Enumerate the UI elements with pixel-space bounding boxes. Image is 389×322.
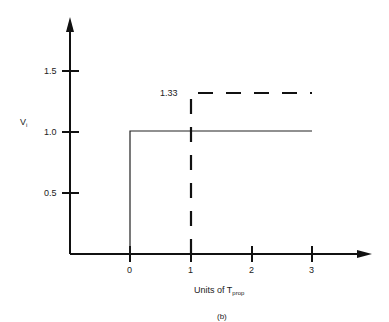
figure-caption: (b): [217, 312, 227, 321]
dashed-step-series: [191, 93, 312, 254]
annotation-1-33: 1.33: [160, 88, 178, 98]
y-tick-1-0: 1.0: [44, 127, 57, 137]
chart-canvas: [0, 0, 389, 322]
solid-step-series: [130, 131, 312, 254]
y-tick-1-5: 1.5: [44, 66, 57, 76]
x-tick-2: 2: [249, 265, 254, 275]
x-tick-3: 3: [309, 265, 314, 275]
y-tick-0-5: 0.5: [44, 188, 57, 198]
x-tick-0: 0: [127, 265, 132, 275]
y-axis-arrow-icon: [66, 17, 74, 32]
x-tick-1: 1: [188, 265, 193, 275]
y-axis-label: Vi: [20, 117, 27, 128]
x-axis-label: Units of Tprop: [194, 285, 244, 296]
x-axis-arrow-icon: [357, 250, 372, 258]
